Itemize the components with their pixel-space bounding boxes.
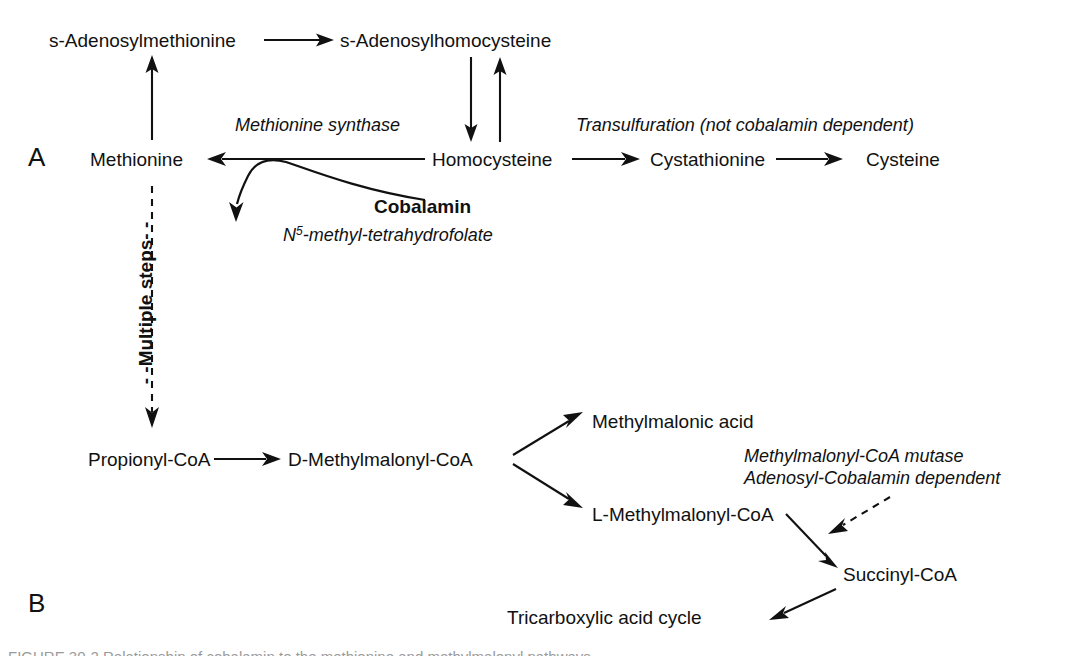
label-cobalamin: Cobalamin [374,196,471,217]
node-methylmalonic-acid: Methylmalonic acid [592,411,754,432]
arrow-l-methylmalonyl-to-succinyl [786,514,838,568]
node-d-methylmalonyl-coa: D-Methylmalonyl-CoA [288,449,473,470]
node-cystathionine: Cystathionine [650,149,765,170]
arrow-homocysteine-to-cystathionine [572,152,640,166]
node-s-adenosylhomocysteine: s-Adenosylhomocysteine [340,30,551,51]
node-l-methylmalonyl-coa: L-Methylmalonyl-CoA [592,504,774,525]
arrow-cystathionine-to-cysteine [776,152,843,166]
figure-caption-clipped: FIGURE 30-2 Relationship of cobalamin to… [0,649,1072,656]
node-methionine: Methionine [90,149,183,170]
figure-caption-text: FIGURE 30-2 Relationship of cobalamin to… [0,649,1072,656]
arrow-d-methylmalonyl-to-methylmalonic-acid [513,412,583,455]
label-mutase-line1: Methylmalonyl-CoA mutase [744,446,963,466]
label-methionine-synthase: Methionine synthase [235,115,400,135]
node-cysteine: Cysteine [866,149,940,170]
node-homocysteine: Homocysteine [432,149,552,170]
pathway-svg: A B s-Adenosylmethionine s-Adenosylhomoc… [0,0,1072,656]
panel-label-b: B [28,588,45,618]
node-tca-cycle: Tricarboxylic acid cycle [507,607,702,628]
arrow-succinyl-to-tca [769,589,836,620]
node-s-adenosylmethionine: s-Adenosylmethionine [49,30,236,51]
label-methyl-thf: N5-methyl-tetrahydrofolate [283,224,493,245]
arrow-methionine-to-sam [146,55,159,140]
arrow-homocysteine-to-sah [494,57,507,142]
methyl-thf-n: N [283,225,297,245]
arrow-homocysteine-to-methionine [207,152,425,166]
node-succinyl-coa: Succinyl-CoA [843,564,957,585]
panel-label-a: A [28,142,46,172]
arrow-propionyl-to-d-methylmalonyl [214,452,281,466]
arrow-sah-to-homocysteine [465,57,478,142]
pathway-diagram: A B s-Adenosylmethionine s-Adenosylhomoc… [0,0,1072,656]
label-multiple-steps: - -Multiple steps- - [135,222,156,385]
label-transulfuration: Transulfuration (not cobalamin dependent… [576,115,914,135]
arrow-sam-to-sah [264,34,334,47]
arrow-mutase-dashed-pointer [828,497,890,534]
arrow-d-methylmalonyl-to-l-methylmalonyl [513,464,583,508]
node-propionyl-coa: Propionyl-CoA [88,449,211,470]
label-mutase-line2: Adenosyl-Cobalamin dependent [743,468,1001,488]
methyl-thf-rest: -methyl-tetrahydrofolate [303,225,493,245]
